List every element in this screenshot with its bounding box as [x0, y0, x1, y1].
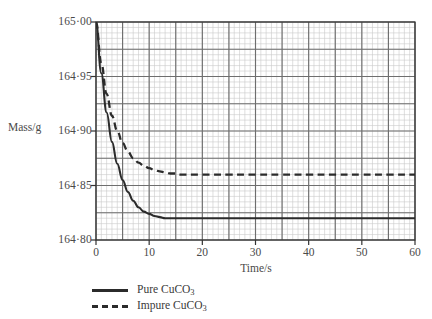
x-tick-label: 10: [129, 246, 169, 258]
legend-dashed-line-swatch: [92, 300, 128, 312]
legend-label-text: Pure CuCO: [137, 283, 190, 295]
y-tick-label: 164·80: [38, 233, 92, 245]
chart-legend: Pure CuCO3Impure CuCO3: [92, 282, 312, 314]
y-axis-title: Mass/g: [8, 121, 41, 133]
legend-label-subscript: 3: [190, 287, 194, 297]
legend-item: Pure CuCO3: [92, 282, 312, 298]
y-tick-label: 164·85: [38, 179, 92, 191]
legend-swatch-bar: [92, 289, 128, 292]
legend-item-label: Pure CuCO3: [137, 283, 195, 297]
x-tick-label: 60: [395, 246, 432, 258]
x-tick-label: 40: [289, 246, 329, 258]
x-tick-label: 30: [236, 246, 276, 258]
y-tick-label: 164·90: [38, 124, 92, 136]
axis-ticks: [91, 22, 415, 245]
x-tick-label: 20: [182, 246, 222, 258]
legend-item-label: Impure CuCO3: [137, 299, 207, 313]
legend-label-text: Impure CuCO: [137, 299, 202, 311]
legend-label-subscript: 3: [202, 303, 206, 313]
legend-item: Impure CuCO3: [92, 298, 312, 314]
legend-swatch-bar: [92, 305, 128, 308]
y-axis-tick-labels: 164·80164·85164·90164·95165·00: [32, 0, 92, 319]
chart-figure: 164·80164·85164·90164·95165·00 010203040…: [0, 0, 432, 319]
x-axis-title: Time/s: [96, 262, 416, 274]
legend-solid-line-swatch: [92, 284, 128, 296]
y-tick-label: 164·95: [38, 70, 92, 82]
x-tick-label: 0: [76, 246, 116, 258]
x-tick-label: 50: [342, 246, 382, 258]
y-tick-label: 165·00: [38, 15, 92, 27]
